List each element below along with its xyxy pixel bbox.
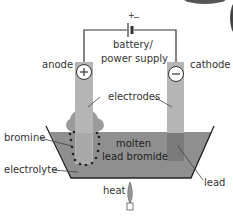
cathode-label: cathode	[190, 60, 231, 70]
lead-label: lead	[204, 178, 225, 188]
battery-minus-label: −	[133, 14, 140, 22]
battery-label-line2: power supply	[101, 54, 168, 64]
battery-label-line1: battery/	[113, 40, 153, 50]
lead-deposit	[167, 133, 184, 161]
corner-decoration	[183, 0, 233, 34]
anode-label: anode	[42, 60, 73, 70]
electrolysis-diagram: + − battery/ power supply anode cathode …	[0, 0, 233, 220]
electrolyte-label: electrolyte	[4, 165, 57, 175]
heat-label: heat	[103, 186, 126, 196]
minus-sign-icon	[169, 67, 184, 82]
flame-icon	[127, 182, 133, 210]
anode-submerged	[76, 133, 92, 163]
battery-icon	[128, 23, 132, 37]
electrodes-label: electrodes	[108, 92, 160, 102]
bromine-label: bromine	[4, 133, 45, 143]
molten-label: molten	[116, 139, 151, 149]
lead-bromide-label: lead bromide	[102, 152, 168, 162]
plus-sign-icon	[77, 65, 92, 80]
